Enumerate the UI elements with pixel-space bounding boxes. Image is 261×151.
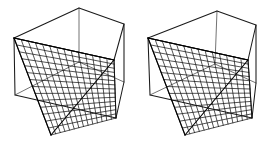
left-cube-top-face	[14, 8, 124, 60]
right-cube-top-face	[148, 11, 256, 60]
right-cube-hidden-edges	[150, 11, 256, 95]
right-figure-group	[148, 11, 256, 135]
left-saddle-rim	[14, 38, 114, 135]
figure-stage	[0, 0, 261, 151]
left-ruling-family-2-1	[17, 45, 115, 64]
right-rim-c	[148, 38, 248, 60]
left-ruling-family-2-11	[43, 106, 116, 115]
right-ruling-family-2-11	[177, 106, 251, 115]
stereo-pair-illustration	[0, 0, 261, 151]
left-figure-group	[14, 8, 124, 135]
left-rim-c	[14, 38, 114, 60]
right-saddle-rulings	[148, 38, 252, 135]
right-hidden-edge-vertical	[215, 11, 217, 64]
right-ruling-family-2-1	[151, 45, 249, 64]
left-saddle-rulings	[14, 38, 116, 135]
right-saddle-rim	[148, 38, 248, 135]
